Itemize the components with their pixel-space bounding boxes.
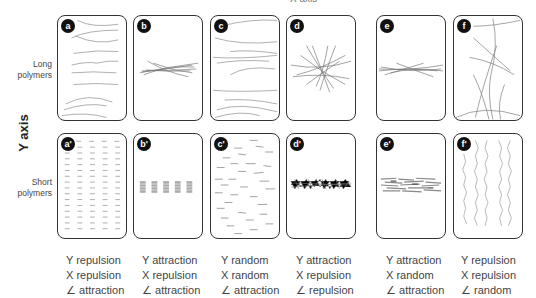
panel-badge: b [137,19,151,33]
panel-c: c [210,15,280,121]
panel-badge: b' [137,137,151,151]
caption-angle: ∠ attraction [221,283,279,298]
caption-f: Y repulsion X repulsion ∠ random [461,253,516,298]
caption-x: X repulsion [142,268,200,283]
caption-y: Y random [221,253,279,268]
caption-d: Y attraction X repulsion ∠ repulsion [296,253,354,298]
row-label-long-line1: Long [0,59,52,70]
panel-a-prime: a' [57,133,127,239]
panel-badge: d' [290,137,304,151]
caption-x: X repulsion [461,268,516,283]
caption-a: Y repulsion X repulsion ∠ attraction [66,253,124,298]
panel-d-prime: d' [286,133,356,239]
caption-y: Y attraction [296,253,354,268]
panel-badge: a [61,19,75,33]
panel-badge: e' [380,137,394,151]
panel-b-prime: b' [133,133,203,239]
caption-angle: ∠ repulsion [296,283,354,298]
caption-x: X random [386,268,444,283]
caption-e: Y attraction X random ∠ attraction [386,253,444,298]
caption-x: X repulsion [296,268,354,283]
panel-badge: d [290,19,304,33]
row-label-short-line2: polymers [0,188,52,199]
caption-c: Y random X random ∠ attraction [221,253,279,298]
row-label-long-line2: polymers [0,70,52,81]
x-axis-label: X axis [290,0,317,4]
caption-b: Y attraction X repulsion ∠ attraction [142,253,200,298]
panel-badge: e [380,19,394,33]
caption-angle: ∠ random [461,283,516,298]
row-label-long: Long polymers [0,59,52,81]
row-label-short: Short polymers [0,177,52,199]
caption-y: Y attraction [386,253,444,268]
panel-badge: a' [61,137,75,151]
panel-badge: c [214,19,228,33]
panel-e-prime: e' [376,133,446,239]
panel-d: d [286,15,356,121]
caption-angle: ∠ attraction [66,283,124,298]
panel-a: a [57,15,127,121]
panel-f: f [453,15,523,121]
caption-y: Y repulsion [461,253,516,268]
caption-y: Y repulsion [66,253,124,268]
caption-y: Y attraction [142,253,200,268]
panel-badge: f' [457,137,471,151]
panel-badge: f [457,19,471,33]
y-axis-label: Y axis [9,113,39,153]
panel-badge: c' [214,137,228,151]
caption-angle: ∠ attraction [142,283,200,298]
panel-f-prime: f' [453,133,523,239]
row-label-short-line1: Short [0,177,52,188]
caption-x: X random [221,268,279,283]
panel-c-prime: c' [210,133,280,239]
caption-angle: ∠ attraction [386,283,444,298]
panel-b: b [133,15,203,121]
panel-e: e [376,15,446,121]
caption-x: X repulsion [66,268,124,283]
